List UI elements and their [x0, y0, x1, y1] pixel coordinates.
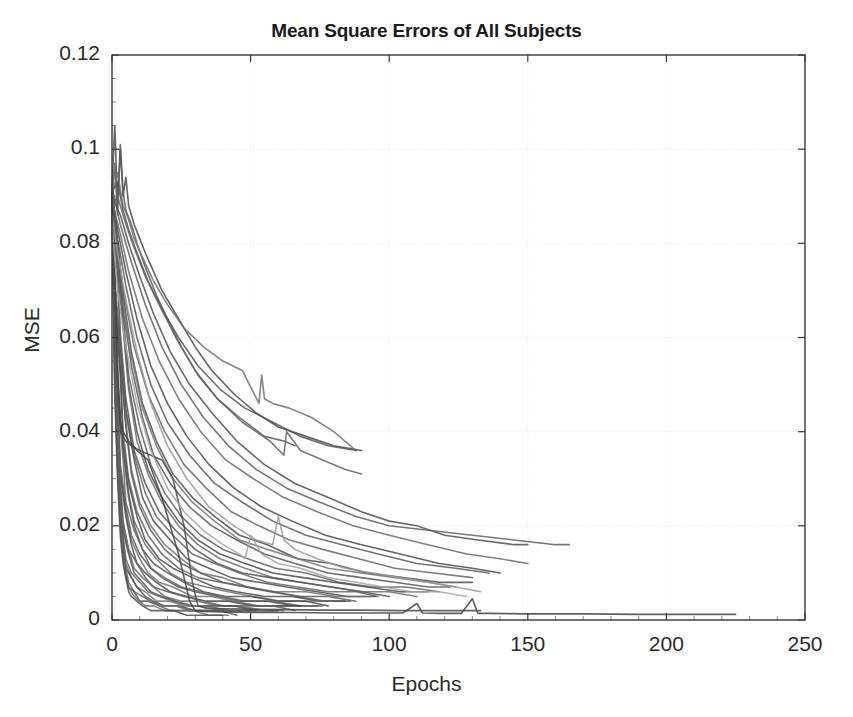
x-tick-label: 150	[488, 632, 568, 656]
y-tick-label: 0.12	[0, 41, 100, 65]
x-tick-label: 100	[349, 632, 429, 656]
chart-figure: Mean Square Errors of All Subjects 00.02…	[0, 0, 853, 717]
y-tick-label: 0	[0, 606, 100, 630]
axes-frame	[112, 55, 805, 620]
x-tick-label: 50	[211, 632, 291, 656]
series-line	[112, 201, 736, 614]
x-tick-label: 250	[765, 632, 845, 656]
x-axis-title: Epochs	[0, 672, 853, 696]
axis-ticks	[112, 55, 805, 620]
series-curves	[112, 126, 736, 616]
series-line	[112, 187, 569, 545]
y-axis-title: MSE	[20, 270, 44, 390]
y-tick-label: 0.08	[0, 229, 100, 253]
x-tick-label: 200	[626, 632, 706, 656]
y-tick-label: 0.06	[0, 324, 100, 348]
plot-canvas	[0, 0, 853, 717]
series-line	[112, 187, 472, 583]
series-line	[112, 206, 345, 602]
x-tick-label: 0	[72, 632, 152, 656]
series-line	[112, 192, 489, 573]
series-line	[112, 182, 356, 450]
y-tick-label: 0.1	[0, 135, 100, 159]
series-line	[112, 192, 375, 597]
y-tick-label: 0.02	[0, 512, 100, 536]
series-line	[112, 196, 500, 573]
y-tick-label: 0.04	[0, 418, 100, 442]
gridlines	[112, 55, 805, 620]
series-line	[112, 201, 528, 564]
